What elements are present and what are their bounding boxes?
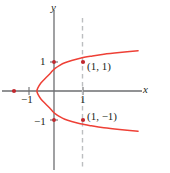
point-marker-y-intercept-upper: [52, 60, 56, 64]
x-axis-label: x: [143, 84, 148, 95]
point-marker-y-intercept-lower: [52, 118, 56, 122]
x-tick-label-positive-one: 1: [80, 94, 86, 105]
y-tick-label-negative-one: −1: [34, 116, 46, 127]
graph-figure: y x 1 −1 −1 1 (1, 1) (1, −1): [0, 0, 170, 173]
x-tick-label-negative-one: −1: [21, 94, 33, 105]
point-marker-upper: [81, 60, 85, 64]
point-marker-vertex: [12, 89, 16, 93]
y-tick-label-positive-one: 1: [40, 56, 46, 67]
annotation-point-upper: (1, 1): [87, 61, 111, 72]
y-axis-label: y: [51, 2, 56, 13]
point-marker-lower: [81, 118, 85, 122]
annotation-point-lower: (1, −1): [87, 111, 117, 122]
